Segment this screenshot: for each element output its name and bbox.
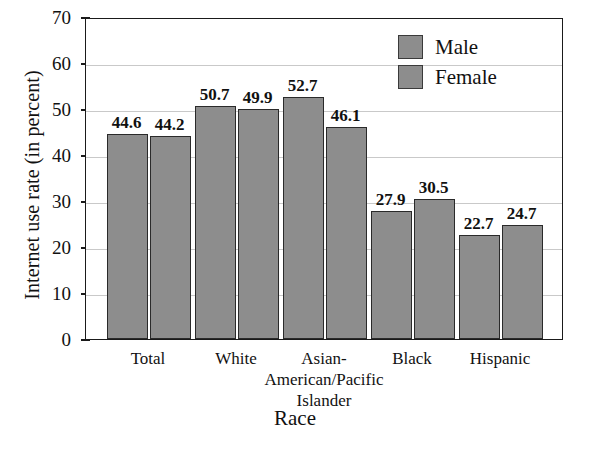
- bar: [371, 211, 412, 339]
- bar: [459, 235, 500, 339]
- y-axis-tick-label: 10: [31, 284, 71, 303]
- legend-item: Female: [398, 62, 548, 92]
- bar: [238, 109, 279, 339]
- y-axis-tick-label: 20: [31, 238, 71, 257]
- bar-value-label: 44.2: [142, 116, 197, 133]
- bar: [283, 97, 324, 339]
- legend-color-swatch: [398, 35, 423, 59]
- y-axis-tick-label: 40: [31, 146, 71, 165]
- bar: [414, 199, 455, 339]
- bar: [107, 134, 148, 339]
- y-axis-tick-label: 0: [31, 330, 71, 349]
- y-axis-tick-label: 50: [31, 100, 71, 119]
- legend-item-label: Male: [435, 37, 478, 58]
- legend-item: Male: [398, 32, 548, 62]
- legend-color-swatch: [398, 65, 423, 89]
- bar-value-label: 30.5: [406, 179, 461, 196]
- bar: [150, 136, 191, 339]
- y-axis-tick-label: 30: [31, 192, 71, 211]
- y-axis-tick-label: 70: [31, 8, 71, 27]
- bar-value-label: 24.7: [494, 205, 549, 222]
- x-axis-category-label: Hispanic: [424, 348, 576, 369]
- bar: [195, 106, 236, 339]
- x-axis-title: Race: [0, 406, 590, 431]
- bar: [326, 127, 367, 339]
- chart-legend: MaleFemale: [398, 32, 548, 92]
- legend-item-label: Female: [435, 67, 497, 88]
- bar-chart-figure: Internet use rate (in percent) 010203040…: [0, 0, 590, 458]
- bar-value-label: 46.1: [318, 107, 373, 124]
- bar-value-label: 52.7: [275, 77, 330, 94]
- bar: [502, 225, 543, 339]
- y-axis-tick-label: 60: [31, 54, 71, 73]
